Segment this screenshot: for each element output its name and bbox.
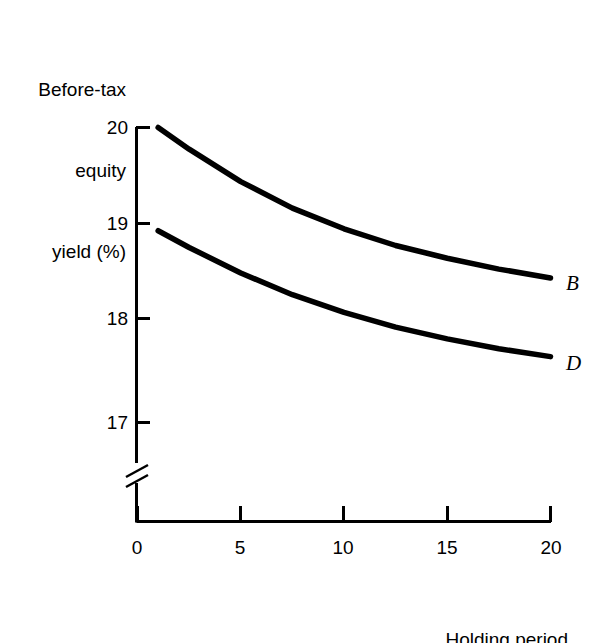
x-axis-ticks bbox=[138, 506, 551, 522]
y-axis-ticks bbox=[136, 128, 150, 423]
series-line-d bbox=[158, 231, 550, 357]
chart-plot-area bbox=[0, 0, 598, 643]
series-line-b bbox=[158, 128, 550, 278]
chart-figure: Before-tax equity yield (%) Holding peri… bbox=[0, 0, 598, 643]
y-axis-break-slash-1 bbox=[126, 465, 148, 477]
